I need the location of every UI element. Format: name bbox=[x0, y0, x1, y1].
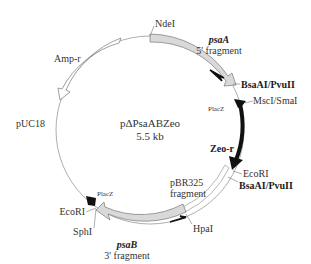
plasmid-name: pΔPsaABZeo bbox=[120, 117, 181, 129]
ecori-right-label: EcoRI bbox=[243, 168, 269, 179]
placz-bottom-marker bbox=[86, 196, 96, 206]
pUC18-label: pUC18 bbox=[16, 118, 45, 129]
amp-r-label: Amp-r bbox=[54, 53, 81, 64]
msci-tick bbox=[245, 101, 253, 103]
ecori-right-tick bbox=[233, 171, 242, 174]
psaB-fragment-arrow bbox=[96, 202, 186, 221]
psaB-fragment-label: 3' fragment bbox=[104, 250, 150, 261]
placz-top-label: PlacZ bbox=[208, 105, 224, 113]
psaA-fragment-label: 5' fragment bbox=[196, 45, 242, 56]
placz-bottom-label: PlacZ bbox=[97, 190, 113, 198]
pbr325-label-line1: pBR325 bbox=[170, 177, 203, 188]
placz-top-marker bbox=[234, 99, 246, 108]
amp-r-arrow bbox=[58, 38, 121, 100]
hpai-label: HpaI bbox=[193, 223, 213, 234]
ndei-label: NdeI bbox=[155, 18, 175, 29]
zeo-r-label: Zeo-r bbox=[210, 143, 234, 154]
bsaai-bottom-label: BsaAI/PvuII bbox=[239, 180, 293, 191]
plasmid-size: 5.5 kb bbox=[136, 130, 164, 142]
sphi-label: SphI bbox=[73, 226, 92, 237]
pbr325-label-line2: fragment bbox=[170, 188, 206, 199]
psaA-label: psaA bbox=[208, 34, 230, 45]
ecori-left-tick bbox=[86, 208, 96, 212]
sphi-tick bbox=[94, 209, 96, 228]
psaB-label: psaB bbox=[116, 239, 138, 250]
bsaai-top-label: BsaAI/PvuII bbox=[241, 79, 295, 90]
ecori-left-label: EcoRI bbox=[59, 206, 85, 217]
msci-label: MscI/SmaI bbox=[253, 95, 297, 106]
plasmid-map: pΔPsaABZeo 5.5 kb pUC18 Amp-r Zeo-r psaA… bbox=[0, 0, 311, 264]
